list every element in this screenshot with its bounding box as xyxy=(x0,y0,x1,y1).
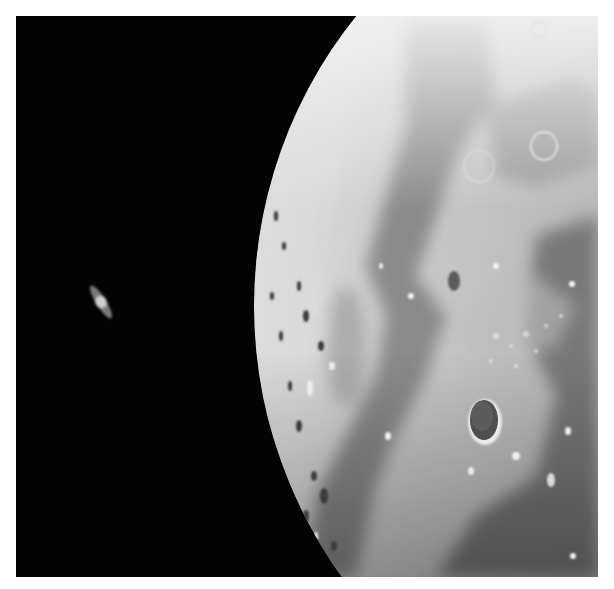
dark-floored-crater xyxy=(468,399,502,445)
astronomy-photo xyxy=(16,16,598,577)
moon-and-saturn-image xyxy=(16,16,598,577)
